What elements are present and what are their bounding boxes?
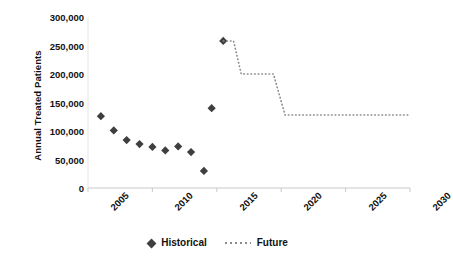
historical-data-point <box>110 126 118 134</box>
future-line <box>223 41 410 115</box>
historical-data-point <box>200 167 208 175</box>
x-tick-label: 2015 <box>237 190 260 213</box>
y-tick-label: 0 <box>26 183 84 194</box>
y-tick-label: 200,000 <box>26 69 84 80</box>
legend-diamond-icon <box>147 238 157 248</box>
historical-data-point <box>148 143 156 151</box>
y-tick-label: 150,000 <box>26 97 84 108</box>
historical-data-point <box>97 112 105 120</box>
historical-data-point <box>208 104 216 112</box>
y-tick-label: 100,000 <box>26 126 84 137</box>
historical-data-point <box>187 148 195 156</box>
legend-dotted-line-icon <box>225 242 251 244</box>
x-tick-label: 2010 <box>173 190 196 213</box>
x-tick-label: 2005 <box>108 190 131 213</box>
legend-label: Future <box>257 238 288 248</box>
historical-data-point <box>161 146 169 154</box>
x-tick-label: 2020 <box>301 190 324 213</box>
y-axis-tick-labels: 300,000250,000200,000150,000100,00050,00… <box>22 0 84 265</box>
chart-legend: HistoricalFuture <box>0 238 436 248</box>
legend-entry[interactable]: Historical <box>148 238 207 248</box>
y-tick-label: 300,000 <box>26 12 84 23</box>
historical-data-point <box>123 136 131 144</box>
plot-area <box>88 17 410 188</box>
plot-svg <box>88 17 410 188</box>
historical-data-point <box>174 142 182 150</box>
historical-data-point <box>135 140 143 148</box>
x-axis-tick-labels: 200520102015202020252030 <box>88 190 418 230</box>
x-tick-label: 2025 <box>366 190 389 213</box>
x-tick-label: 2030 <box>430 190 453 213</box>
legend-label: Historical <box>161 238 207 248</box>
y-tick-label: 50,000 <box>26 154 84 165</box>
legend-entry[interactable]: Future <box>225 238 288 248</box>
y-tick-label: 250,000 <box>26 40 84 51</box>
